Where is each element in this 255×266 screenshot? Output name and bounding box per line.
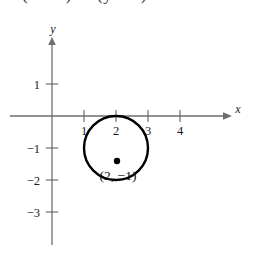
x-tick-label-2: 2 <box>113 124 119 138</box>
y-tick-label-neg1: −1 <box>27 142 40 156</box>
center-point-dot <box>114 158 120 164</box>
x-axis-arrow <box>223 112 232 120</box>
y-tick-label-1: 1 <box>34 78 40 92</box>
coordinate-plot: 1 2 3 4 1 −1 −2 −3 x y (2, −1) <box>0 0 255 266</box>
x-tick-label-4: 4 <box>177 124 184 138</box>
x-axis-label: x <box>234 102 241 116</box>
y-tick-label-neg3: −3 <box>27 206 40 220</box>
y-axis <box>48 37 56 245</box>
center-point-label: (2, −1) <box>100 168 137 183</box>
y-axis-arrow <box>48 37 56 45</box>
y-axis-label: y <box>49 22 56 36</box>
circle-graph-figure: (x − 2)² + (y + 1)² = 1 <box>0 0 255 266</box>
y-tick-label-neg2: −2 <box>27 174 40 188</box>
